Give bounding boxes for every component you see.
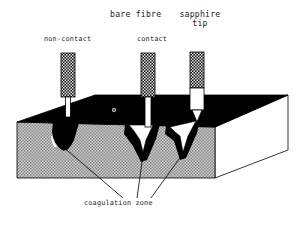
sapphire-tip-ferrule xyxy=(190,88,204,110)
contact-fibre-tube xyxy=(145,97,151,127)
label-contact: contact xyxy=(137,36,167,43)
surface-marker-dot-icon xyxy=(113,109,115,111)
label-coagulation-zone: coagulation zone xyxy=(84,200,153,207)
contact-fibre-cable xyxy=(141,53,155,97)
label-sapphire-tip: sapphire tip xyxy=(177,10,223,27)
label-bare-fibre: bare fibre xyxy=(110,10,161,19)
label-non-contact: non-contact xyxy=(44,36,91,43)
tissue-diagram-svg xyxy=(0,0,301,225)
figure-canvas: bare fibre sapphire tip non-contact cont… xyxy=(0,0,301,225)
non-contact-fibre-cable xyxy=(61,53,75,97)
sapphire-tip-cable xyxy=(190,52,204,88)
non-contact-fibre-tube xyxy=(66,97,71,117)
